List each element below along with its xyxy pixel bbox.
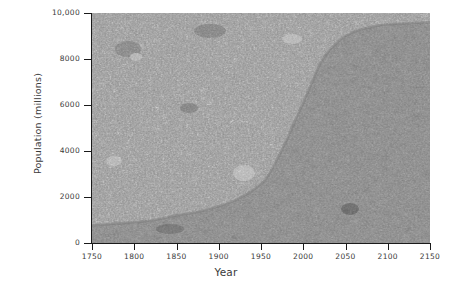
x-tick-label: 2150 [410, 252, 450, 261]
plot-area [92, 13, 430, 243]
y-tick-mark [84, 59, 92, 60]
y-axis-title: Population (millions) [32, 24, 43, 224]
y-axis-line [91, 13, 92, 244]
y-tick-label: 4000 [60, 146, 80, 155]
x-tick-label: 1850 [157, 252, 197, 261]
x-tick-mark [134, 244, 135, 250]
x-tick-mark [219, 244, 220, 250]
x-tick-mark [92, 244, 93, 250]
x-tick-mark [388, 244, 389, 250]
x-tick-label: 2050 [326, 252, 366, 261]
x-tick-label: 1950 [241, 252, 281, 261]
y-tick-mark [84, 105, 92, 106]
y-tick-label: 2000 [60, 192, 80, 201]
plot-svg [92, 13, 430, 243]
y-tick-mark [84, 243, 92, 244]
y-tick-label: 0 [75, 238, 80, 247]
x-tick-label: 2000 [283, 252, 323, 261]
x-axis-title: Year [0, 266, 452, 278]
y-tick-label: 8000 [60, 54, 80, 63]
x-tick-label: 2100 [368, 252, 408, 261]
y-tick-mark [84, 13, 92, 14]
x-tick-label: 1800 [114, 252, 154, 261]
x-tick-mark [177, 244, 178, 250]
y-tick-label: 6000 [60, 100, 80, 109]
population-chart-figure: 0200040006000800010,000 1750180018501900… [0, 0, 452, 299]
y-tick-mark [84, 197, 92, 198]
x-tick-label: 1900 [199, 252, 239, 261]
x-tick-label: 1750 [72, 252, 112, 261]
x-tick-mark [303, 244, 304, 250]
x-tick-mark [261, 244, 262, 250]
x-tick-mark [346, 244, 347, 250]
y-tick-mark [84, 151, 92, 152]
y-tick-label: 10,000 [52, 8, 80, 17]
x-tick-mark [430, 244, 431, 250]
